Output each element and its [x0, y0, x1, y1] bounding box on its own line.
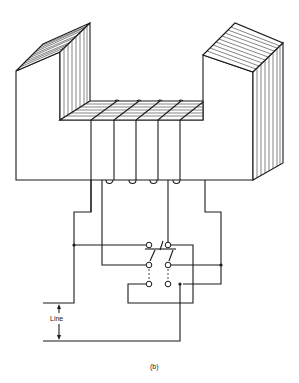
switch-terminal: [146, 262, 152, 268]
line-voltage-indicator: Line: [50, 304, 63, 340]
switch-terminal: [165, 242, 171, 248]
switch-terminal: [146, 281, 152, 287]
transformer-diagram: Line (b): [0, 0, 299, 383]
junction-dot: [178, 282, 181, 285]
arrow-down-icon: [57, 335, 61, 340]
junction-dot: [219, 263, 222, 266]
double-pole-switch: [145, 241, 176, 287]
figure-caption: (b): [150, 363, 159, 371]
switch-terminal: [165, 262, 171, 268]
circuit-wiring: [43, 180, 221, 341]
switch-terminal: [165, 281, 171, 287]
arrow-up-icon: [57, 304, 61, 309]
junction-dot: [72, 243, 75, 246]
switch-terminal: [146, 242, 152, 248]
transformer-core: [16, 23, 283, 180]
line-label: Line: [50, 315, 63, 322]
